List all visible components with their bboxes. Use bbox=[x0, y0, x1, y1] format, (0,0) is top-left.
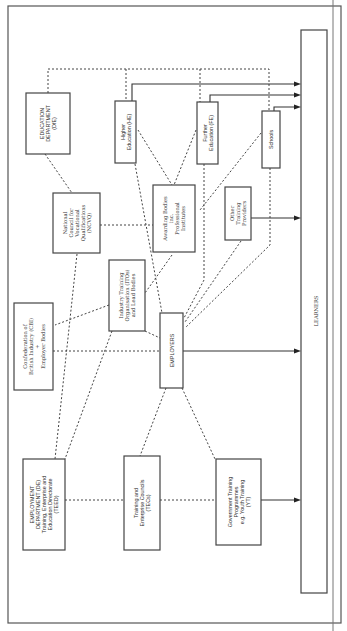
edge-itos-employers bbox=[145, 331, 160, 338]
edge-dfe-bus bbox=[48, 69, 269, 111]
edge-awarding-itos bbox=[145, 255, 172, 293]
svg-text:EMPLOYERS: EMPLOYERS bbox=[169, 333, 175, 367]
svg-text:(NCVQ): (NCVQ) bbox=[86, 213, 92, 234]
node-itos: Industry Training Organisation (ITOs) an… bbox=[109, 260, 145, 331]
svg-text:Education (HE): Education (HE) bbox=[126, 114, 132, 151]
svg-text:Education (FE): Education (FE) bbox=[208, 115, 214, 151]
edge-itos-cbi bbox=[55, 305, 109, 325]
arrowhead bbox=[294, 216, 301, 221]
arrowhead bbox=[294, 93, 301, 98]
edge-he-awarding bbox=[138, 130, 172, 185]
node-other-training-providers: Other Training Providers bbox=[225, 187, 251, 240]
diagram-canvas: LEARNERS EDUCATION DEPARTMENT (DfE) bbox=[0, 0, 347, 631]
node-further-education: Further Education (FE) bbox=[197, 102, 218, 164]
edge-employers-tecs bbox=[140, 388, 166, 456]
edge-dfe-ncvq bbox=[45, 154, 72, 193]
edge-itos-de bbox=[65, 331, 112, 459]
edge-ncvq-de bbox=[55, 254, 77, 459]
svg-text:Institutes: Institutes bbox=[180, 206, 186, 231]
node-schools: Schools bbox=[262, 111, 280, 168]
node-ncvq: National Council for Vocational Qualific… bbox=[53, 193, 100, 253]
node-tecs: Training and Enterprise Councils (TECs) bbox=[124, 456, 160, 550]
svg-text:Schools: Schools bbox=[268, 130, 274, 149]
svg-text:and Lead Bodies: and Lead Bodies bbox=[130, 273, 136, 317]
node-higher-education: Higher Education (HE) bbox=[115, 101, 136, 163]
arrowhead bbox=[294, 82, 301, 87]
arrowhead bbox=[294, 498, 301, 503]
svg-text:(DfE): (DfE) bbox=[51, 117, 57, 130]
arrowhead bbox=[294, 349, 301, 354]
node-employment-department: EMPLOYMENT DEPARTMENT (DE) Training, Ent… bbox=[23, 459, 65, 550]
arrow-he-learners bbox=[132, 84, 296, 101]
arrowhead bbox=[294, 105, 301, 110]
edge-employers-gov bbox=[182, 388, 215, 459]
node-government-training: Government Training Programmes e.g. Yout… bbox=[216, 459, 261, 545]
svg-text:(TECs): (TECs) bbox=[145, 494, 151, 511]
node-cbi: Confederation of British Industry (CBI) … bbox=[14, 303, 53, 390]
svg-text:Employer Bodies: Employer Bodies bbox=[40, 324, 47, 369]
arrow-fe-learners bbox=[210, 95, 296, 102]
svg-text:(TEED): (TEED) bbox=[53, 495, 59, 513]
edge-fe-awarding bbox=[174, 130, 196, 185]
node-employers: EMPLOYERS bbox=[160, 313, 183, 388]
node-awarding-bodies: Awarding Bodies inc. Professional Instit… bbox=[153, 185, 195, 252]
learners-label: LEARNERS bbox=[313, 295, 319, 326]
svg-text:(YT): (YT) bbox=[245, 497, 251, 508]
node-education-department: EDUCATION DEPARTMENT (DfE) bbox=[26, 93, 70, 154]
svg-text:Providers: Providers bbox=[241, 201, 247, 227]
